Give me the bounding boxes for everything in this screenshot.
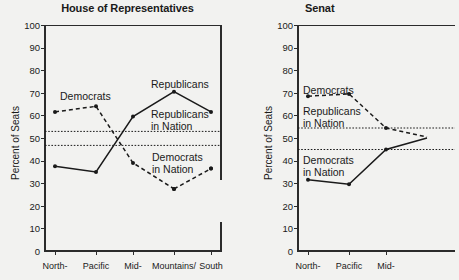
- senate-annotation-republicans-in-nation-line1: Republicans: [303, 106, 361, 118]
- senate-chart-panel: Senat Percent of Seats 100 90 80 70 60 5…: [255, 0, 455, 280]
- senate-xtick-label-pacific: Pacific: [328, 262, 370, 271]
- house-xtick-mark: [211, 251, 212, 255]
- house-annotation-democrats-in-nation-line2: in Nation: [152, 164, 193, 176]
- house-annotation-republicans-in-nation-line2: in Nation: [151, 121, 192, 133]
- senate-xtick-label-midwest: Mid-: [367, 262, 405, 271]
- senate-xtick-label-northeast: North-: [286, 262, 330, 271]
- senate-xtick-mark: [308, 251, 309, 255]
- house-xtick-mark: [133, 251, 134, 255]
- house-plot-overlay: [0, 0, 255, 280]
- house-annotation-democrats-in-nation-line1: Democrats: [152, 152, 203, 164]
- house-point-democrats: [209, 167, 213, 171]
- senate-xtick-mark: [386, 251, 387, 255]
- senate-annotation-democrats-in-nation-line2: in Nation: [303, 167, 344, 179]
- house-point-democrats: [172, 187, 176, 191]
- house-annotation-republicans-in-nation-line1: Republicans: [151, 109, 209, 121]
- house-annotation-democrats: Democrats: [60, 91, 111, 103]
- house-xtick-mark: [96, 251, 97, 255]
- house-annotation-republicans: Republicans: [151, 79, 209, 91]
- house-xtick-mark: [55, 251, 56, 255]
- senate-annotation-democrats-in-nation-line1: Democrats: [303, 155, 354, 167]
- house-chart-panel: House of Representatives Percent of Seat…: [0, 0, 255, 280]
- senate-annotation-democrats: Democrats: [303, 85, 354, 97]
- senate-point-democrats: [384, 126, 388, 130]
- house-xtick-label-northeast: North-: [33, 262, 77, 271]
- senate-point-republicans: [347, 182, 351, 186]
- house-xtick-label-south: South: [192, 262, 230, 271]
- senate-annotation-republicans-in-nation-line2: in Nation: [303, 118, 344, 130]
- senate-point-republicans: [384, 148, 388, 152]
- senate-xtick-mark: [349, 251, 350, 255]
- house-xtick-mark: [174, 251, 175, 255]
- senate-plot-area: [255, 0, 455, 280]
- house-xtick-label-pacific: Pacific: [75, 262, 117, 271]
